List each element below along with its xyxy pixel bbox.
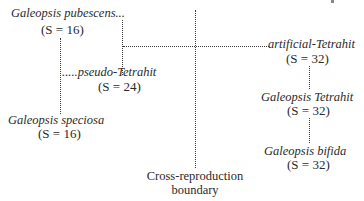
galeopsis-hybridization-diagram: Galeopsis pubescens... (S = 16) .....pse… [0,0,364,201]
edge-tetrahit-to-bifida [309,118,310,143]
node-pseudo-tetrahit-chromosomes: (S = 24) [98,80,141,93]
node-pubescens-chromosomes: (S = 16) [41,23,84,36]
boundary-label-line1: Cross-reproduction [140,169,250,183]
node-pubescens-name: Galeopsis pubescens... [11,7,125,20]
boundary-label: Cross-reproduction boundary [140,169,250,197]
node-pseudo-tetrahit-name: .....pseudo-Tetrahit [62,66,156,79]
node-tetrahit-chromosomes: (S = 32) [287,104,330,117]
node-artificial-tetrahit-name: artificial-Tetrahit [268,38,355,51]
node-speciosa-chromosomes: (S = 16) [38,127,81,140]
node-bifida-chromosomes: (S = 32) [287,158,330,171]
boundary-label-line2: boundary [140,183,250,197]
edge-artificial-tetrahit-to-tetrahit [309,66,310,89]
cross-reproduction-boundary-line [195,10,196,168]
edge-pubescens-speciosa [60,38,61,114]
node-artificial-tetrahit-chromosomes: (S = 32) [286,52,329,65]
page-fragment [331,0,334,3]
edge-pubescens-artificial-tetrahit [123,46,269,47]
